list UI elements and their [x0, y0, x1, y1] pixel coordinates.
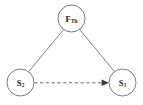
edge-s2-to-f-th — [29, 30, 64, 72]
node-f-th-label-sub: Th — [71, 18, 78, 24]
edge-f-th-to-s1 — [80, 29, 115, 71]
diagram-canvas: FTh S2 S1 — [0, 0, 143, 105]
node-s2-label: S2 — [17, 78, 24, 87]
node-f-th-label: FTh — [66, 14, 78, 23]
node-s2-label-sub: 2 — [22, 82, 25, 88]
arrowhead-into-s1 — [102, 80, 109, 87]
node-s1-label-sub: 1 — [124, 82, 127, 88]
node-s1-label: S1 — [119, 78, 126, 87]
